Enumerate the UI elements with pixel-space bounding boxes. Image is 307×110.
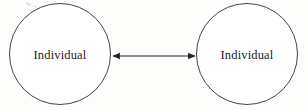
left-node-label: Individual — [34, 48, 87, 63]
right-node-label: Individual — [221, 48, 274, 63]
diagram-canvas: Individual Individual — [0, 0, 307, 110]
